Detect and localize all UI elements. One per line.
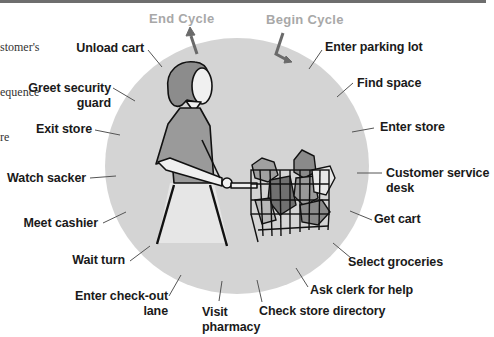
step-ask-clerk-for-help: Ask clerk for help <box>310 283 413 298</box>
step-enter-store: Enter store <box>380 120 445 135</box>
step-get-cart: Get cart <box>374 212 420 227</box>
step-label-line: Customer service <box>386 166 489 181</box>
step-customer-service-desk: Customer service desk <box>386 166 489 196</box>
step-enter-parking-lot: Enter parking lot <box>325 40 423 55</box>
begin-cycle-label: Begin Cycle <box>266 12 344 27</box>
step-label-line: Enter check-out <box>72 289 168 304</box>
step-greet-security-guard: Greet security guard <box>0 81 111 111</box>
step-label-line: Visit <box>202 305 260 320</box>
step-meet-cashier: Meet cashier <box>0 216 98 231</box>
step-unload-cart: Unload cart <box>40 41 144 56</box>
step-enter-check-out-lane: Enter check-out lane <box>72 289 168 319</box>
step-label-line: guard <box>0 96 111 111</box>
step-select-groceries: Select groceries <box>348 255 443 270</box>
step-watch-sacker: Watch sacker <box>0 171 86 186</box>
step-exit-store: Exit store <box>0 122 92 137</box>
step-visit-pharmacy: Visit pharmacy <box>202 305 260 335</box>
step-label-line: Greet security <box>0 81 111 96</box>
step-check-store-directory: Check store directory <box>259 304 385 319</box>
step-wait-turn: Wait turn <box>40 253 125 268</box>
step-label-line: lane <box>72 304 168 319</box>
step-label-line: pharmacy <box>202 320 260 335</box>
end-cycle-label: End Cycle <box>149 11 215 26</box>
step-label-line: desk <box>386 181 489 196</box>
step-find-space: Find space <box>357 76 421 91</box>
